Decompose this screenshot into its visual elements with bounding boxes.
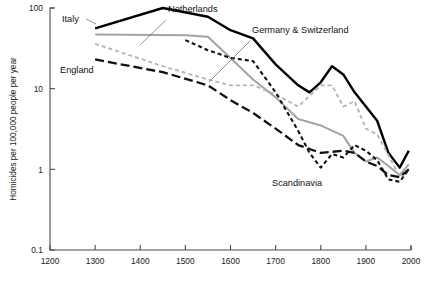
y-tick-label: 100 — [29, 3, 43, 13]
italy-label-connector — [86, 19, 96, 24]
x-tick-label: 1500 — [176, 256, 195, 266]
x-tick-label: 1300 — [86, 256, 105, 266]
axis-frame — [50, 8, 411, 250]
series-label-germany-switzerland: Germany & Switzerland — [252, 25, 349, 35]
x-tick-label: 1600 — [221, 256, 240, 266]
y-tick-label: 10 — [34, 84, 44, 94]
homicide-rate-chart: 1001010.11200130014001500160017001800190… — [0, 0, 424, 281]
series-label-italy: Italy — [62, 14, 79, 24]
series-label-netherlands: Netherlands — [168, 4, 218, 14]
annotation-leader-line — [140, 20, 166, 45]
series-label-england: England — [60, 65, 94, 75]
annotation-leader-line — [209, 41, 250, 82]
x-tick-label: 1200 — [41, 256, 60, 266]
y-tick-label: 0.1 — [31, 245, 43, 255]
y-tick-label: 1 — [38, 165, 43, 175]
x-tick-label: 2000 — [402, 256, 421, 266]
y-axis-title: Homicides per 100,000 people per year — [9, 57, 18, 201]
x-tick-label: 1400 — [131, 256, 150, 266]
series-line-netherlands — [95, 34, 409, 175]
chart-svg: 1001010.11200130014001500160017001800190… — [0, 0, 424, 281]
series-label-scandinavia: Scandinavia — [272, 178, 323, 188]
series-line-scandinavia — [185, 40, 408, 182]
x-tick-label: 1700 — [266, 256, 285, 266]
x-tick-label: 1800 — [311, 256, 330, 266]
x-tick-label: 1900 — [357, 256, 376, 266]
